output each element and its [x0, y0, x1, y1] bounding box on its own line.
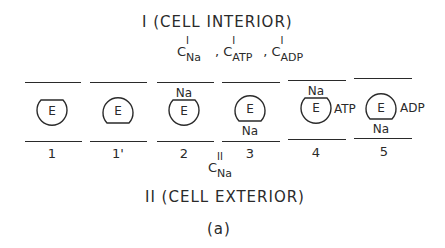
ligand-side-5: ADP: [400, 101, 425, 115]
ligand-bottom-3: Na: [240, 124, 260, 138]
state-number-2: 2: [176, 146, 192, 161]
state-number-1: 1: [44, 146, 60, 161]
ligand-top-2: Na: [174, 86, 194, 100]
conc-symbol: C: [208, 160, 217, 175]
enzyme-label-1: E: [44, 104, 60, 118]
conc-na-exterior: CIINa: [208, 160, 242, 175]
state-number-1prime: 1': [110, 146, 126, 161]
enzyme-label-2: E: [176, 104, 192, 118]
ligand-bottom-5: Na: [371, 122, 391, 136]
state-number-4: 4: [308, 145, 324, 160]
state-number-3: 3: [242, 146, 258, 161]
state-number-5: 5: [376, 144, 392, 159]
conc-superscript: II: [217, 151, 223, 162]
exterior-concentration: CIINa: [208, 160, 242, 175]
ligand-side-4: ATP: [334, 102, 356, 116]
enzyme-label-1prime: E: [110, 104, 126, 118]
exterior-title: II (CELL EXTERIOR): [145, 188, 305, 206]
ligand-top-4: Na: [306, 84, 326, 98]
enzyme-label-5: E: [373, 101, 389, 115]
enzyme-label-4: E: [308, 101, 324, 115]
conc-subscript: Na: [217, 167, 232, 180]
figure-caption: (a): [207, 220, 231, 238]
enzyme-label-3: E: [242, 102, 258, 116]
